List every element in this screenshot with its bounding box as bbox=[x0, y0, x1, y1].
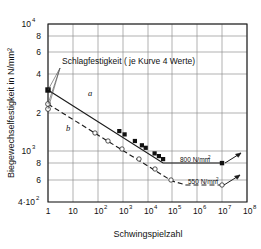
y-tick-4e2-base: 4·10 bbox=[18, 197, 35, 207]
y-tick-10e3-base: 10 bbox=[22, 146, 32, 156]
series-a-point bbox=[140, 143, 144, 147]
x-tick-10: 10 bbox=[68, 206, 78, 216]
y-tick-600: 6 bbox=[36, 175, 41, 185]
series-a-point bbox=[161, 157, 165, 161]
y-tick-10e4-base: 10 bbox=[22, 19, 32, 29]
series-a-label: a bbox=[88, 88, 92, 98]
x-axis-title: Schwingspielzahl bbox=[113, 229, 182, 239]
series-b-label: b bbox=[66, 123, 70, 133]
plateau-b-text: 550 N/mm bbox=[188, 178, 218, 185]
series-a-point bbox=[123, 132, 127, 136]
series-b-point bbox=[120, 147, 124, 151]
series-a-plateau-label: 800 N/mm 2 bbox=[180, 155, 211, 163]
y-tick-800: 8 bbox=[36, 158, 41, 168]
chart-svg: b 550 N/mm 2 bbox=[0, 0, 261, 249]
x-axis-tick-labels: 1 10 10 2 10 3 10 4 10 5 10 6 bbox=[46, 204, 257, 216]
x-tick-1e4-base: 10 bbox=[144, 206, 154, 216]
series-a-point bbox=[133, 139, 137, 143]
y-axis-title: Biegewechselfestigkeit in N/mm² bbox=[6, 48, 16, 178]
series-a-point-end bbox=[220, 161, 224, 165]
series-b-point-end bbox=[220, 183, 224, 187]
chart-figure: b 550 N/mm 2 bbox=[0, 0, 261, 249]
series-a-point bbox=[153, 151, 157, 155]
series-a-point bbox=[157, 154, 161, 158]
x-tick-1e3-base: 10 bbox=[119, 206, 129, 216]
series-b-point bbox=[93, 131, 97, 135]
series-a-point bbox=[144, 146, 148, 150]
y-tick-6000: 6 bbox=[36, 47, 41, 57]
y-tick-4000: 4 bbox=[36, 69, 41, 79]
x-tick-1e2-base: 10 bbox=[94, 206, 104, 216]
callout-impact-strength: Schlagfestigkeit ( je Kurve 4 Werte) bbox=[62, 56, 195, 66]
series-b-point bbox=[169, 178, 173, 182]
series-b-point bbox=[137, 157, 141, 161]
series-b-point bbox=[106, 139, 110, 143]
series-a-point bbox=[117, 129, 121, 133]
x-tick-1e7-base: 10 bbox=[218, 206, 228, 216]
x-tick-1e6-base: 10 bbox=[193, 206, 203, 216]
x-tick-1: 1 bbox=[46, 206, 51, 216]
x-tick-1e5-base: 10 bbox=[168, 206, 178, 216]
series-b-point bbox=[153, 167, 157, 171]
y-tick-2000: 2 bbox=[36, 108, 41, 118]
y-tick-8000: 8 bbox=[36, 31, 41, 41]
x-tick-1e8-base: 10 bbox=[243, 206, 253, 216]
series-b-plateau-label: 550 N/mm 2 bbox=[188, 177, 219, 185]
plateau-a-text: 800 N/mm bbox=[180, 156, 210, 163]
